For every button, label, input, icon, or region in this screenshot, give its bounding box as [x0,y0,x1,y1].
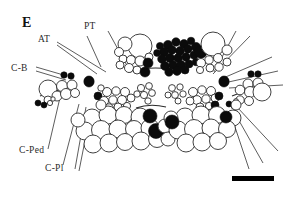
cell-open [100,134,118,152]
cell-filled [41,102,47,108]
cell-open [205,56,213,64]
cell-open [206,64,214,72]
cell-filled [168,46,177,55]
cell-open [222,45,232,55]
cell-filled [181,66,189,74]
cell-filled [172,38,180,46]
cell-open [175,98,181,104]
scale-bar [232,176,274,181]
cell-filled [184,45,192,53]
cell-open [61,89,72,100]
cell-filled [68,73,74,79]
cell-open [149,90,156,97]
cell-open [231,100,241,110]
cell-open [245,97,254,106]
cell-open [210,133,227,150]
cell-filled [219,77,229,87]
label-at: AT [38,34,50,44]
cell-filled [165,115,179,129]
cell-open [189,88,198,97]
cell-filled [143,58,153,68]
cell-open [134,91,140,97]
cell-filled [140,67,150,77]
cell-open [117,134,134,151]
cell-open [235,85,245,95]
cell-open [51,97,55,101]
cell-open [177,84,183,90]
cell-open [71,89,80,98]
cell-open [145,98,151,104]
cell-open [98,85,104,91]
cell-filled [154,50,161,57]
cell-open [96,100,106,110]
cell-open [253,83,271,101]
cell-open [165,92,171,98]
cell-filled [61,72,67,78]
cell-open [116,61,124,69]
figure-canvas: E AT PT C-B C-Ped C-Pl [0,0,294,200]
cell-filled [215,92,223,100]
cell-filled [248,71,254,77]
cell-open [112,87,120,95]
cell-open [215,63,223,71]
cell-open [193,133,211,151]
panel-label: E [22,15,31,30]
cell-open [172,92,179,99]
cell-open [84,135,102,153]
label-pt: PT [84,21,96,31]
cell-open [198,86,206,94]
cell-open [169,85,176,92]
label-c-b: C-B [11,63,28,73]
cell-open [127,56,136,65]
cell-open [201,32,225,56]
cell-open [180,91,186,97]
cell-open [137,84,144,91]
cell-open [223,58,231,66]
cell-open [196,66,203,73]
cell-filled [173,67,182,76]
cell-open [71,113,85,127]
cell-open [125,64,134,73]
cell-open [140,91,147,98]
cell-filled [143,109,157,123]
cell-open [202,95,210,103]
cell-open [132,132,150,150]
cell-filled [84,77,94,87]
cell-open [177,134,195,152]
figure-panel: E AT PT C-B C-Ped C-Pl [0,0,294,200]
cell-open [186,97,194,105]
cell-open [109,96,117,104]
cell-filled [255,71,261,77]
label-c-ped: C-Ped [19,145,44,155]
cell-open [214,54,223,63]
cell-filled [35,100,41,106]
cell-filled [156,42,163,49]
label-c-pl: C-Pl [45,163,64,173]
cell-open [146,83,153,90]
cell-filled [220,111,232,123]
cell-filled [165,68,173,76]
